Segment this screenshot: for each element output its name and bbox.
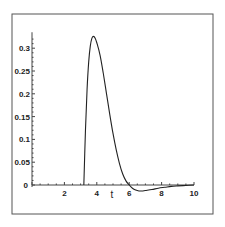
y-tick-label: 0.05 [14, 158, 30, 167]
x-tick-label: 10 [190, 189, 199, 198]
x-axis-label: t [111, 189, 114, 200]
x-tick-label: 2 [62, 189, 67, 198]
y-tick-label: 0.1 [19, 135, 31, 144]
x-tick-label: 4 [95, 189, 100, 198]
y-tick-label: 0.2 [19, 90, 31, 99]
y-tick-label: 0.25 [14, 67, 30, 76]
chart-canvas: 02468100.050.10.150.20.250.3 t [0, 0, 225, 227]
x-tick-label: 8 [159, 189, 164, 198]
x-tick-label: 0 [24, 181, 29, 190]
y-tick-label: 0.3 [19, 44, 31, 53]
x-tick-label: 6 [127, 189, 132, 198]
y-tick-label: 0.15 [14, 113, 30, 122]
